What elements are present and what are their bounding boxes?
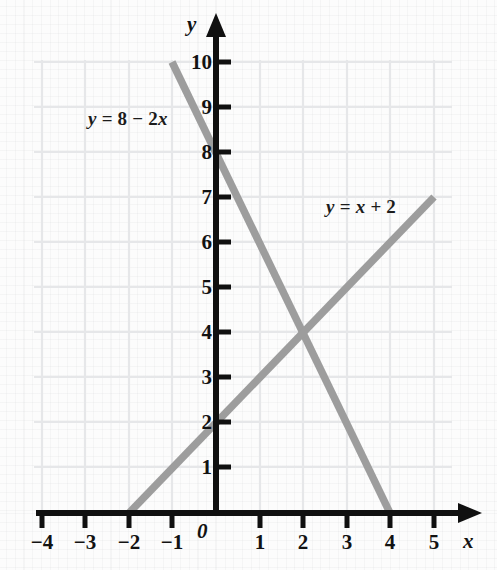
x-tick-label-neg3: −3 [65,530,105,555]
y-tick-label-4: 4 [176,320,212,345]
y-tick-label-8: 8 [176,140,212,165]
series-label-y-x-plus-2: y=x+ 2 [326,196,396,218]
series-label2-eq: = [340,196,351,217]
x-tick-label-1: 1 [240,530,280,555]
x-tick-label-neg1: −1 [152,530,192,555]
y-tick-label-3: 3 [176,365,212,390]
series-line-y-x-plus-2 [129,197,434,513]
series-label-lhs-var: y [88,108,97,129]
y-axis [206,13,231,513]
y-tick-label-5: 5 [176,275,212,300]
y-tick-label-1: 1 [176,455,212,480]
coordinate-plane [0,0,497,570]
y-tick-label-6: 6 [176,230,212,255]
y-tick-label-7: 7 [176,185,212,210]
series-label2-x-var: x [356,196,366,217]
x-axis-name: x [463,529,474,554]
y-tick-label-2: 2 [176,410,212,435]
x-tick-label-3: 3 [327,530,367,555]
series-label2-lhs-var: y [326,196,335,217]
origin-label: 0 [197,519,208,544]
y-tick-label-9: 9 [176,95,212,120]
x-tick-label-4: 4 [370,530,410,555]
x-tick-label-neg2: −2 [109,530,149,555]
graph-figure: 10 9 8 7 6 5 4 3 2 1 −4 −3 −2 −1 1 2 3 4… [0,0,497,570]
x-tick-label-5: 5 [414,530,454,555]
series-label-y-8-minus-2x: y= 8 − 2x [88,108,168,130]
x-tick-label-2: 2 [283,530,323,555]
x-tick-label-neg4: −4 [22,530,62,555]
y-axis-name: y [187,12,196,37]
series-label-body: = 8 − 2 [102,108,158,129]
series-label-x-var: x [158,108,168,129]
y-tick-label-10: 10 [176,50,212,75]
series-label2-rhs: + 2 [370,196,396,217]
